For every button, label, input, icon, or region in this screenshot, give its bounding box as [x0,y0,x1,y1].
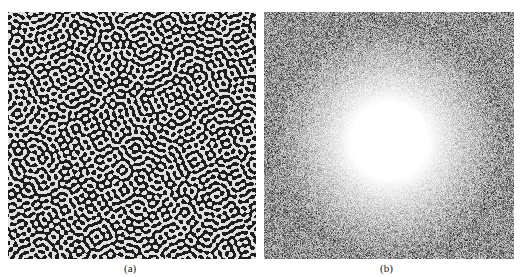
figure-panel-a [8,12,256,259]
caption-a: (a) [124,262,136,274]
caption-b: (b) [380,262,393,274]
spectrum-ring-image [264,12,514,259]
labyrinth-pattern-image [8,12,256,259]
figure-panel-b [264,12,514,259]
